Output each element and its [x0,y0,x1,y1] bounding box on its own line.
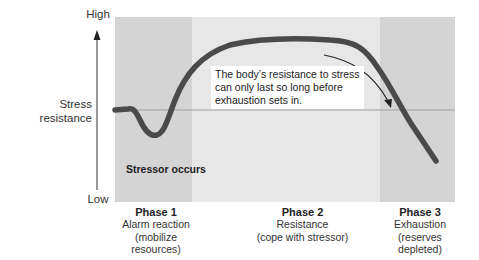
phase2-label: Phase 2 Resistance (cope with stressor) [240,206,365,243]
callout-line-3: exhaustion sets in. [215,94,360,107]
phase1-line1: Alarm reaction [110,218,202,231]
y-axis-title: Stress resistance [20,97,92,125]
stressor-label: Stressor occurs [126,163,206,175]
phase2-line2: (cope with stressor) [240,231,365,244]
phase3-label: Phase 3 Exhaustion (reserves depleted) [375,206,465,256]
callout-line-2: can only last so long before [215,81,360,94]
y-low-label: Low [78,193,118,205]
phase1-title: Phase 1 [110,206,202,218]
arrow-head-icon [384,99,392,108]
callout-text: The body’s resistance to stress can only… [211,66,364,109]
phase3-line3: depleted) [375,243,465,256]
phase3-title: Phase 3 [375,206,465,218]
phase1-line3: resources) [110,243,202,256]
phase3-line2: (reserves [375,231,465,244]
y-axis-title-line1: Stress [20,97,92,111]
phase1-line2: (mobilize [110,231,202,244]
phase2-title: Phase 2 [240,206,365,218]
phase3-line1: Exhaustion [375,218,465,231]
y-axis-arrow-icon [94,30,101,40]
y-axis-title-line2: resistance [20,111,92,125]
callout-line-1: The body’s resistance to stress [215,68,360,81]
phase1-label: Phase 1 Alarm reaction (mobilize resourc… [110,206,202,256]
y-high-label: High [78,8,118,20]
phase2-line1: Resistance [240,218,365,231]
